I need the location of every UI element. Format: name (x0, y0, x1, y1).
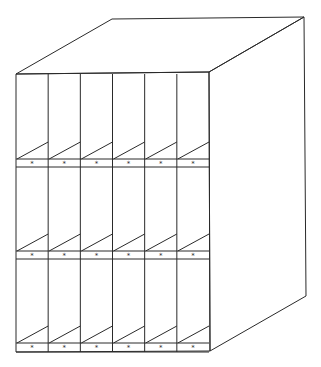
slot-label-marker: * (127, 252, 131, 260)
slot-diagonal (146, 234, 177, 251)
slot-diagonal (114, 234, 145, 251)
slot-diagonal (178, 326, 209, 343)
slot-diagonal (114, 142, 145, 159)
slot-diagonal (178, 142, 209, 159)
cabinet-side-face (209, 17, 306, 351)
pigeonhole-grid: ****************** (16, 74, 209, 352)
slot-label-marker: * (159, 160, 163, 168)
slot-diagonal (146, 326, 177, 343)
slot-label-marker: * (95, 160, 99, 168)
slot-label-marker: * (63, 160, 67, 168)
cabinet-top-face (16, 17, 304, 74)
slot-label-marker: * (95, 344, 99, 352)
cabinet-diagram: ****************** (0, 0, 321, 367)
slot-diagonal (17, 234, 48, 251)
slot-diagonal (49, 142, 80, 159)
slot-diagonal (17, 326, 48, 343)
slot-label-marker: * (30, 344, 34, 352)
slot-diagonal (146, 142, 177, 159)
slot-label-marker: * (159, 252, 163, 260)
slot-label-marker: * (191, 252, 195, 260)
slot-diagonal (81, 142, 112, 159)
slot-label-marker: * (95, 252, 99, 260)
slot-diagonal (178, 234, 209, 251)
slot-label-marker: * (30, 160, 34, 168)
slot-label-marker: * (63, 344, 67, 352)
slot-label-marker: * (159, 344, 163, 352)
slot-diagonal (81, 326, 112, 343)
slot-diagonal (81, 234, 112, 251)
slot-diagonal (49, 326, 80, 343)
slot-label-marker: * (127, 160, 131, 168)
slot-diagonal (17, 142, 48, 159)
slot-label-marker: * (63, 252, 67, 260)
slot-label-marker: * (30, 252, 34, 260)
slot-diagonal (114, 326, 145, 343)
slot-label-marker: * (191, 160, 195, 168)
slot-label-marker: * (127, 344, 131, 352)
slot-label-marker: * (191, 344, 195, 352)
slot-diagonal (49, 234, 80, 251)
